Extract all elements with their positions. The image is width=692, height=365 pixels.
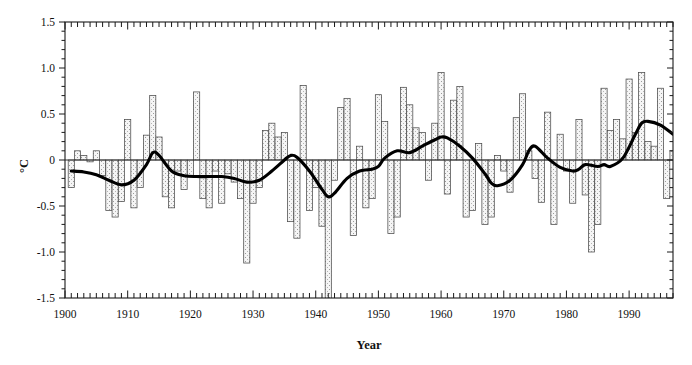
bar-1948 xyxy=(363,160,369,208)
bar-1961 xyxy=(444,160,450,194)
bar-1911 xyxy=(131,160,137,208)
bar-1950 xyxy=(375,95,381,160)
bar-1938 xyxy=(300,85,306,160)
y-tick-label: -0.5 xyxy=(37,200,55,212)
bar-1951 xyxy=(382,121,388,160)
y-tick-label: 1.5 xyxy=(41,16,56,28)
bar-1960 xyxy=(438,73,444,160)
x-tick-label: 1970 xyxy=(492,308,515,320)
bar-1901 xyxy=(68,160,74,188)
y-tick-label: -1.5 xyxy=(37,292,55,304)
bar-1925 xyxy=(219,160,225,203)
bar-1936 xyxy=(288,160,294,222)
bar-1964 xyxy=(463,160,469,217)
bar-1909 xyxy=(118,160,124,201)
bar-1932 xyxy=(263,131,269,160)
bar-1977 xyxy=(545,112,551,160)
bar-1949 xyxy=(369,160,375,199)
x-axis-title: Year xyxy=(357,338,382,352)
bar-1988 xyxy=(614,120,620,160)
x-tick-label: 1920 xyxy=(179,308,202,320)
bar-1913 xyxy=(143,135,149,160)
bar-1906 xyxy=(100,160,106,176)
bar-1962 xyxy=(451,100,457,160)
y-tick-label: 0 xyxy=(49,154,55,166)
bar-1933 xyxy=(269,123,275,160)
bar-1926 xyxy=(225,160,231,174)
bar-1958 xyxy=(425,160,431,180)
bar-1976 xyxy=(538,160,544,202)
x-tick-label: 1900 xyxy=(54,308,77,320)
bar-1982 xyxy=(576,120,582,160)
y-tick-label: 0.5 xyxy=(41,108,56,120)
bar-1985 xyxy=(595,160,601,224)
bar-1914 xyxy=(150,96,156,160)
bar-1920 xyxy=(187,160,193,176)
y-axis-title: °C xyxy=(17,159,31,173)
y-tick-label: 1.0 xyxy=(41,62,56,74)
x-tick-label: 1910 xyxy=(116,308,139,320)
bar-1973 xyxy=(520,94,526,160)
bar-1942 xyxy=(325,160,331,309)
bar-1908 xyxy=(112,160,118,217)
bar-1993 xyxy=(645,142,651,160)
x-tick-label: 1990 xyxy=(618,308,641,320)
bar-1978 xyxy=(551,160,557,224)
bar-1929 xyxy=(244,160,250,263)
bar-1986 xyxy=(601,88,607,160)
bar-1937 xyxy=(294,160,300,238)
bar-1923 xyxy=(206,160,212,208)
bar-1984 xyxy=(588,160,594,252)
bar-1979 xyxy=(557,134,563,160)
bar-1975 xyxy=(532,160,538,178)
bar-1934 xyxy=(275,137,281,160)
bars-layer xyxy=(68,73,676,309)
bar-1952 xyxy=(388,160,394,234)
y-tick-label: -1.0 xyxy=(37,246,55,258)
x-tick-label: 1980 xyxy=(555,308,578,320)
bar-1972 xyxy=(513,118,519,160)
bar-1965 xyxy=(469,160,475,211)
bar-1954 xyxy=(400,87,406,160)
bar-1944 xyxy=(338,108,344,160)
bar-1970 xyxy=(501,160,507,171)
temperature-anomaly-chart: -1.5-1.0-0.500.51.01.5190019101920193019… xyxy=(0,0,692,365)
bar-1907 xyxy=(106,160,112,211)
bar-1921 xyxy=(194,92,200,160)
bar-1935 xyxy=(281,132,287,160)
bar-1992 xyxy=(639,73,645,160)
bar-1918 xyxy=(175,160,181,171)
x-tick-label: 1940 xyxy=(304,308,327,320)
bar-1931 xyxy=(256,160,262,188)
axis-tick-labels: -1.5-1.0-0.500.51.01.5190019101920193019… xyxy=(37,16,641,320)
bar-1905 xyxy=(93,151,99,160)
x-tick-label: 1960 xyxy=(430,308,453,320)
bar-1968 xyxy=(488,160,494,217)
x-tick-label: 1930 xyxy=(242,308,265,320)
bar-1922 xyxy=(200,160,206,199)
bar-1956 xyxy=(413,128,419,160)
bar-1969 xyxy=(494,155,500,160)
bar-1996 xyxy=(664,160,670,199)
bar-1981 xyxy=(570,160,576,203)
bar-1994 xyxy=(651,146,657,160)
x-tick-label: 1950 xyxy=(367,308,390,320)
bar-1902 xyxy=(74,151,80,160)
bar-1903 xyxy=(81,155,87,160)
bar-1987 xyxy=(607,131,613,160)
bar-1924 xyxy=(212,160,218,171)
bar-1910 xyxy=(125,120,131,160)
bar-1945 xyxy=(344,98,350,160)
bar-1943 xyxy=(331,160,337,180)
bar-1966 xyxy=(476,143,482,160)
chart-figure: -1.5-1.0-0.500.51.01.5190019101920193019… xyxy=(0,0,692,365)
bar-1953 xyxy=(394,160,400,217)
bar-1947 xyxy=(357,146,363,160)
